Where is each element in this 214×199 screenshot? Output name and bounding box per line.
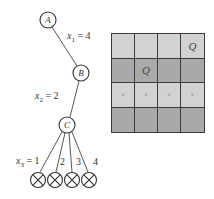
leaf-node-4 [82, 173, 97, 188]
board-cell [181, 59, 204, 84]
board-cell-blocked: × [135, 83, 158, 108]
board-cell [158, 108, 181, 133]
leaf-node-3 [65, 173, 80, 188]
leaf-node-2 [48, 173, 63, 188]
edge-label-x3: x3 = 1 [16, 156, 40, 170]
blocked-mark: × [144, 91, 148, 99]
board-cell [112, 59, 135, 84]
edge-label-x2: x2 = 2 [35, 91, 59, 105]
board-cell [158, 59, 181, 84]
leaf-label-3: 3 [76, 157, 81, 167]
edge-c-leaf3 [69, 133, 72, 172]
edge-label-x1: x1 = 4 [67, 31, 91, 45]
edge-c-leaf1 [40, 132, 62, 172]
leaf-label-4: 4 [93, 157, 98, 167]
board-cell-blocked: × [181, 83, 204, 108]
board-cell-blocked: × [112, 83, 135, 108]
board-cell-blocked: × [158, 83, 181, 108]
board-cell [112, 108, 135, 133]
board-cell [158, 34, 181, 59]
node-b-label: B [73, 65, 89, 81]
board-cell [135, 34, 158, 59]
board-cell [181, 108, 204, 133]
queens-board: Q Q × × × × [111, 33, 205, 133]
leaf-node-1 [31, 173, 46, 188]
leaf-label-2: 2 [60, 157, 65, 167]
board-cell [112, 34, 135, 59]
node-a-label: A [40, 12, 56, 28]
blocked-mark: × [191, 91, 195, 99]
edge-b-c [70, 81, 79, 117]
node-c-label: C [59, 117, 75, 133]
blocked-mark: × [121, 91, 125, 99]
value-x1: = 4 [75, 30, 91, 41]
board-cell [135, 108, 158, 133]
value-x2: = 2 [43, 90, 59, 101]
board-cell-queen: Q [135, 59, 158, 84]
blocked-mark: × [167, 91, 171, 99]
board-cell-queen: Q [181, 34, 204, 59]
value-x3: = 1 [24, 155, 40, 166]
